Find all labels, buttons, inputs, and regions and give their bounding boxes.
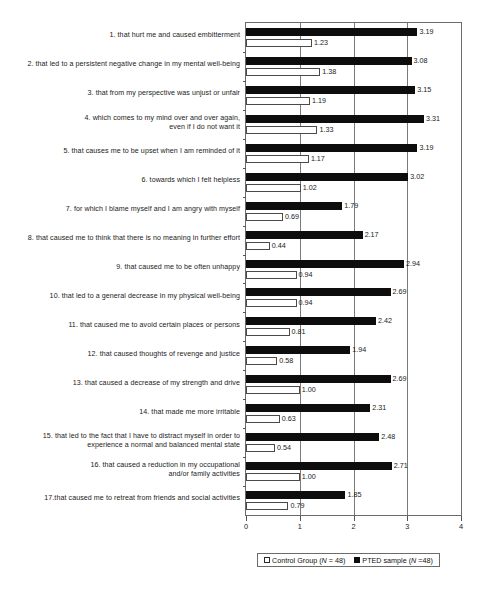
bar-value-label: 1.00 — [302, 386, 316, 394]
bar-value-label: 2.31 — [372, 404, 386, 412]
x-axis-tick — [300, 516, 301, 521]
y-axis-tick — [243, 341, 246, 342]
plot-area: 3.191.233.081.383.151.193.311.333.191.17… — [246, 23, 461, 515]
category-label: 12. that caused thoughts of revenge and … — [2, 350, 240, 359]
bar-group: 3.191.23 — [246, 28, 461, 52]
category-label: 4. which comes to my mind over and over … — [2, 114, 240, 132]
category-label: 11. that caused me to avoid certain plac… — [2, 321, 240, 330]
category-label: 10. that led to a general decrease in my… — [2, 292, 240, 301]
bar-value-label: 3.19 — [419, 28, 433, 36]
bar-control-group — [246, 473, 300, 481]
bar-value-label: 0.58 — [279, 357, 293, 365]
x-axis: 01234 — [245, 516, 462, 536]
legend-label-pted: PTED sample (N =48) — [362, 556, 433, 565]
bar-group: 1.850.79 — [246, 491, 461, 515]
bar-pted-sample — [246, 462, 392, 470]
horizontal-bar-chart: 1. that hurt me and caused embitterment2… — [0, 0, 482, 591]
bar-control-group — [246, 242, 270, 250]
bar-control-group — [246, 357, 277, 365]
bar-pted-sample — [246, 28, 417, 36]
category-label: 16. that caused a reduction in my occupa… — [2, 461, 240, 479]
bar-value-label: 0.44 — [272, 242, 286, 250]
bar-value-label: 1.38 — [322, 68, 336, 76]
bar-value-label: 1.79 — [344, 202, 358, 210]
bar-value-label: 0.94 — [299, 299, 313, 307]
category-label: 6. towards which I felt helpless — [2, 176, 240, 185]
bar-value-label: 2.94 — [406, 260, 420, 268]
bar-control-group — [246, 213, 283, 221]
chart-legend: Control Group (N = 48) PTED sample (N =4… — [257, 553, 440, 567]
bar-control-group — [246, 39, 312, 47]
bar-control-group — [246, 415, 280, 423]
plot-frame: 3.191.233.081.383.151.193.311.333.191.17… — [245, 22, 462, 516]
bar-control-group — [246, 271, 297, 279]
category-label: 5. that causes me to be upset when I am … — [2, 147, 240, 156]
y-axis-tick — [243, 81, 246, 82]
bar-value-label: 1.23 — [314, 39, 328, 47]
bar-control-group — [246, 126, 317, 134]
y-axis-tick — [243, 255, 246, 256]
bar-group: 3.151.19 — [246, 86, 461, 110]
bar-group: 3.021.02 — [246, 173, 461, 197]
bar-pted-sample — [246, 115, 424, 123]
bar-value-label: 2.17 — [365, 231, 379, 239]
y-axis-tick — [243, 399, 246, 400]
bar-pted-sample — [246, 491, 345, 499]
bar-group: 2.420.81 — [246, 317, 461, 341]
bar-value-label: 0.63 — [282, 415, 296, 423]
bar-value-label: 2.69 — [393, 375, 407, 383]
bar-pted-sample — [246, 346, 350, 354]
bar-value-label: 2.42 — [378, 317, 392, 325]
pted-sample-swatch-icon — [354, 557, 360, 563]
bar-pted-sample — [246, 317, 376, 325]
bar-value-label: 3.02 — [410, 173, 424, 181]
bar-group: 3.191.17 — [246, 144, 461, 168]
control-group-swatch-icon — [264, 557, 270, 563]
bar-control-group — [246, 328, 290, 336]
y-axis-tick — [243, 312, 246, 313]
y-axis-tick — [243, 457, 246, 458]
bar-group: 2.170.44 — [246, 231, 461, 255]
bar-value-label: 1.85 — [347, 491, 361, 499]
category-label: 9. that caused me to be often unhappy — [2, 263, 240, 272]
bar-value-label: 0.79 — [290, 502, 304, 510]
bar-control-group — [246, 299, 297, 307]
y-axis-tick — [243, 486, 246, 487]
x-axis-tick — [354, 516, 355, 521]
bar-control-group — [246, 155, 309, 163]
legend-entry-control: Control Group (N = 48) — [264, 556, 345, 565]
bar-pted-sample — [246, 173, 408, 181]
bar-value-label: 0.94 — [299, 271, 313, 279]
category-label: 15. that led to the fact that I have to … — [2, 432, 240, 450]
category-label-column: 1. that hurt me and caused embitterment2… — [0, 22, 243, 516]
bar-control-group — [246, 68, 320, 76]
bar-value-label: 0.81 — [292, 328, 306, 336]
bar-value-label: 0.69 — [285, 213, 299, 221]
category-label: 8. that caused me to think that there is… — [2, 234, 240, 243]
category-label: 14. that made me more irritable — [2, 408, 240, 417]
x-axis-tick-label: 4 — [459, 522, 463, 531]
bar-control-group — [246, 97, 310, 105]
x-axis-tick-label: 0 — [244, 522, 248, 531]
bar-pted-sample — [246, 144, 417, 152]
bar-group: 2.940.94 — [246, 260, 461, 284]
bar-value-label: 1.00 — [302, 473, 316, 481]
y-axis-tick — [243, 283, 246, 284]
bar-value-label: 3.15 — [417, 86, 431, 94]
bar-pted-sample — [246, 260, 404, 268]
bar-pted-sample — [246, 404, 370, 412]
category-label: 17.that caused me to retreat from friend… — [2, 494, 240, 503]
legend-label-control: Control Group (N = 48) — [272, 556, 345, 565]
legend-entry-pted: PTED sample (N =48) — [354, 556, 433, 565]
x-axis-tick — [461, 516, 462, 521]
bar-value-label: 1.02 — [303, 184, 317, 192]
bar-control-group — [246, 444, 275, 452]
bar-value-label: 1.19 — [312, 97, 326, 105]
y-axis-tick — [243, 226, 246, 227]
bar-group: 2.310.63 — [246, 404, 461, 428]
y-axis-tick — [243, 52, 246, 53]
bar-control-group — [246, 386, 300, 394]
category-label: 7. for which I blame myself and I am ang… — [2, 205, 240, 214]
bar-value-label: 2.71 — [394, 462, 408, 470]
x-axis-tick-label: 1 — [298, 522, 302, 531]
